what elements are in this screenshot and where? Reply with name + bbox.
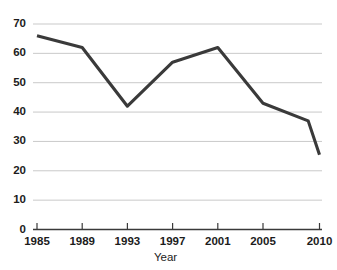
y-tick-label: 70: [0, 18, 26, 30]
x-tick-label: 1993: [105, 236, 149, 248]
x-axis-title: Year: [0, 251, 331, 263]
y-tick-label: 60: [0, 47, 26, 59]
x-tick-label: 2010: [298, 236, 337, 248]
gridlines-group: [33, 24, 322, 200]
x-tick-label: 1997: [151, 236, 195, 248]
x-tick-label: 2005: [241, 236, 285, 248]
y-tick-label: 10: [0, 194, 26, 206]
x-tick-label: 1985: [15, 236, 59, 248]
x-tick-label: 1989: [60, 236, 104, 248]
x-tick-label: 2001: [196, 236, 240, 248]
y-tick-label: 20: [0, 165, 26, 177]
x-tick-marks-group: [37, 223, 320, 229]
y-tick-label: 30: [0, 135, 26, 147]
y-tick-label: 40: [0, 106, 26, 118]
y-tick-label: 0: [0, 224, 26, 236]
y-tick-label: 50: [0, 77, 26, 89]
